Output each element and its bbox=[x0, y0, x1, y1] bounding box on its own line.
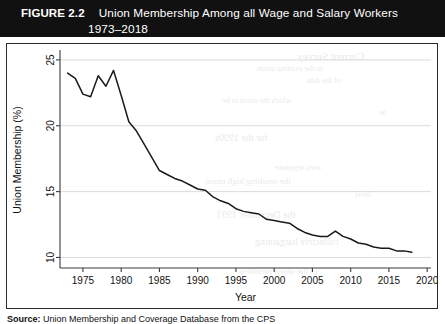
x-tick-label: 2010 bbox=[340, 275, 363, 286]
y-tick-label: 25 bbox=[46, 54, 57, 66]
x-tick-label: 1990 bbox=[187, 275, 210, 286]
figure-title-text: Union Membership Among all Wage and Sala… bbox=[99, 6, 398, 20]
source-label: Source: bbox=[7, 314, 41, 324]
x-tick-label: 2005 bbox=[301, 275, 324, 286]
union-membership-data-line bbox=[68, 70, 412, 252]
source-text: Union Membership and Coverage Database f… bbox=[43, 314, 275, 324]
y-axis-title: Union Membership (%) bbox=[11, 106, 23, 213]
y-axis-tick-labels: 10152025 bbox=[46, 54, 57, 263]
figure-year-range-text: 1973–2018 bbox=[88, 22, 148, 36]
figure-number-label: FIGURE 2.2 bbox=[21, 7, 85, 19]
chart-tick-marks bbox=[56, 60, 427, 272]
x-tick-label: 2015 bbox=[378, 275, 401, 286]
x-tick-label: 2000 bbox=[263, 275, 286, 286]
chart-panel: Current Surveyto the existing unionof th… bbox=[6, 43, 438, 309]
x-axis-title: Year bbox=[235, 291, 257, 303]
y-tick-label: 15 bbox=[46, 186, 57, 198]
x-tick-label: 1980 bbox=[110, 275, 133, 286]
y-tick-label: 10 bbox=[46, 251, 57, 263]
figure-header-bar: FIGURE 2.2Union Membership Among all Wag… bbox=[0, 0, 445, 37]
figure-header-line-2: 1973–2018 bbox=[88, 19, 148, 37]
chart-gridlines bbox=[60, 60, 431, 258]
union-membership-line-chart: 10152025 1975198019851990199520002005201… bbox=[7, 44, 437, 308]
figure-header-line-1: FIGURE 2.2Union Membership Among all Wag… bbox=[21, 3, 398, 21]
x-tick-label: 1975 bbox=[72, 275, 95, 286]
y-tick-label: 20 bbox=[46, 120, 57, 132]
x-tick-label: 1995 bbox=[225, 275, 248, 286]
x-axis-tick-labels: 1975198019851990199520002005201020152020 bbox=[72, 275, 437, 286]
source-caption: Source: Union Membership and Coverage Da… bbox=[7, 314, 275, 324]
x-tick-label: 2020 bbox=[416, 275, 437, 286]
x-tick-label: 1985 bbox=[148, 275, 171, 286]
